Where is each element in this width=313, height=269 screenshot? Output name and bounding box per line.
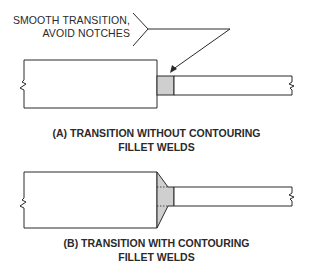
- thin-plate-a: [174, 76, 294, 95]
- caption-a: (A) TRANSITION WITHOUT CONTOURING FILLET…: [0, 126, 313, 154]
- caption-b-line-1: (B) TRANSITION WITH CONTOURING: [0, 236, 313, 250]
- thin-plate-b: [174, 187, 294, 206]
- callout-line-2: AVOID NOTCHES: [13, 27, 130, 40]
- caption-b: (B) TRANSITION WITH CONTOURING FILLET WE…: [0, 236, 313, 264]
- caption-a-line-1: (A) TRANSITION WITHOUT CONTOURING: [0, 126, 313, 140]
- caption-a-line-2: FILLET WELDS: [0, 140, 313, 154]
- callout-label: SMOOTH TRANSITION, AVOID NOTCHES: [13, 14, 130, 40]
- arrowhead-icon: [170, 65, 177, 73]
- figure-b-drawing: [20, 172, 294, 228]
- contoured-fillet-weld-b: [157, 172, 174, 228]
- figure-a-drawing: [20, 60, 294, 108]
- thick-plate-b: [20, 172, 157, 228]
- callout-line-1: SMOOTH TRANSITION,: [13, 14, 130, 27]
- butt-weld-a: [157, 76, 174, 95]
- caption-b-line-2: FILLET WELDS: [0, 250, 313, 264]
- thick-plate-a: [20, 60, 157, 108]
